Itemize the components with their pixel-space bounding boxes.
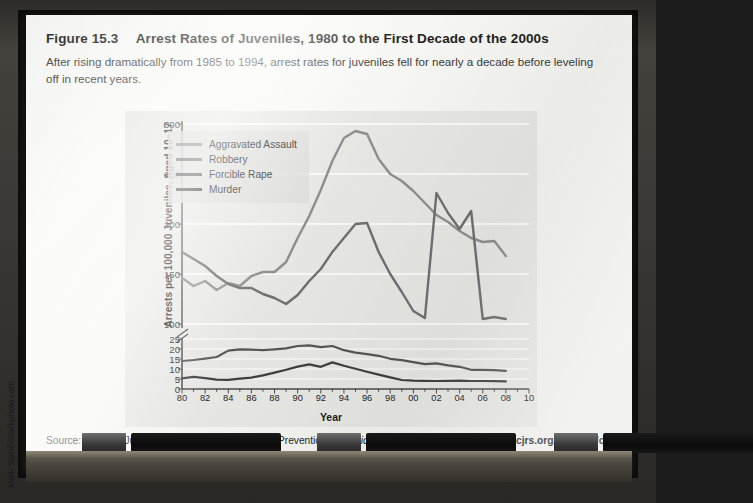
x-tick-label: 02 xyxy=(425,393,447,403)
x-tick-label: 80 xyxy=(171,393,193,403)
y-tick-label: 25 xyxy=(126,334,180,345)
y-tick-label: 5 xyxy=(126,374,180,385)
chart-legend: Aggravated AssaultRobberyForcible RapeMu… xyxy=(168,131,309,203)
figure-heading: Figure 15.3 Arrest Rates of Juveniles, 1… xyxy=(46,31,606,46)
legend-label: Murder xyxy=(209,184,241,195)
legend-label: Forcible Rape xyxy=(209,169,272,180)
legend-label: Robbery xyxy=(209,154,248,165)
legend-item: Aggravated Assault xyxy=(176,137,297,152)
chart-panel: Arrests per 100,000 Juveniles, Aged 10–1… xyxy=(125,111,537,427)
x-tick-label: 94 xyxy=(333,393,355,403)
legend-label: Aggravated Assault xyxy=(209,139,297,150)
eraser-3 xyxy=(554,433,598,453)
x-axis-label: Year xyxy=(125,411,537,423)
x-tick-label: 96 xyxy=(356,393,378,403)
eraser xyxy=(82,433,126,453)
marker-black-1 xyxy=(131,433,281,453)
y-tick-label: 300 xyxy=(126,119,180,130)
marker-black-3 xyxy=(603,433,753,453)
x-tick-label: 88 xyxy=(264,393,286,403)
y-tick-label: 150 xyxy=(126,269,180,280)
legend-item: Murder xyxy=(176,182,297,197)
whiteboard: Figure 15.3 Arrest Rates of Juveniles, 1… xyxy=(26,15,632,453)
x-tick-label: 84 xyxy=(217,393,239,403)
x-tick-label: 00 xyxy=(402,393,424,403)
figure-number: Figure 15.3 xyxy=(46,31,118,46)
y-tick-label: 10 xyxy=(126,364,180,375)
y-tick-label: 15 xyxy=(126,354,180,365)
x-tick-label: 82 xyxy=(194,393,216,403)
marker-black-2 xyxy=(366,433,516,453)
marker-tray-lip xyxy=(26,451,632,458)
y-tick-label: 100 xyxy=(126,319,180,330)
x-tick-label: 06 xyxy=(472,393,494,403)
legend-line-swatch xyxy=(176,158,202,161)
photo-credit: Mark Stahl/iStockphoto.com xyxy=(6,308,16,488)
figure-subtitle: After rising dramatically from 1985 to 1… xyxy=(46,53,598,87)
x-tick-label: 08 xyxy=(495,393,517,403)
x-tick-label: 92 xyxy=(310,393,332,403)
plot-area: Arrests per 100,000 Juveniles, Aged 10–1… xyxy=(125,111,537,427)
x-tick-label: 04 xyxy=(449,393,471,403)
series-line-robbery xyxy=(182,193,506,319)
x-tick-label: 98 xyxy=(379,393,401,403)
x-tick-label: 10 xyxy=(518,393,540,403)
x-tick-label: 86 xyxy=(240,393,262,403)
eraser-2 xyxy=(317,433,361,453)
legend-line-swatch xyxy=(176,188,202,191)
x-tick-label: 90 xyxy=(287,393,309,403)
legend-line-swatch xyxy=(176,143,202,146)
legend-item: Robbery xyxy=(176,152,297,167)
heading-block: Figure 15.3 Arrest Rates of Juveniles, 1… xyxy=(46,31,606,87)
y-tick-label: 200 xyxy=(126,219,180,230)
y-tick-label: 20 xyxy=(126,344,180,355)
legend-line-swatch xyxy=(176,173,202,176)
legend-item: Forcible Rape xyxy=(176,167,297,182)
page-title: Arrest Rates of Juveniles, 1980 to the F… xyxy=(136,31,549,46)
